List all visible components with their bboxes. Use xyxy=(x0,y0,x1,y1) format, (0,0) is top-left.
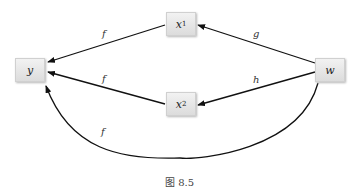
edge-label-x1-y: f xyxy=(102,28,106,39)
node-label: w xyxy=(325,64,334,77)
edge-label-x2-y: f xyxy=(102,73,106,84)
edge-label-w-y: f xyxy=(101,126,105,137)
figure-caption: 图 8.5 xyxy=(0,174,359,189)
node-x1: x1 xyxy=(166,12,196,36)
edge-x1-y xyxy=(48,25,165,62)
node-y: y xyxy=(15,58,45,82)
node-w: w xyxy=(315,58,345,82)
edge-label-w-x2: h xyxy=(253,74,259,85)
node-x2: x2 xyxy=(166,92,196,116)
diagram-canvas: y x1 x2 w f f g h f 图 8.5 xyxy=(0,0,359,192)
edge-x2-y xyxy=(48,72,165,104)
edge-label-w-x1: g xyxy=(253,28,259,39)
node-label: y xyxy=(27,64,33,77)
node-subscript: 2 xyxy=(182,100,186,108)
node-subscript: 1 xyxy=(182,20,186,28)
